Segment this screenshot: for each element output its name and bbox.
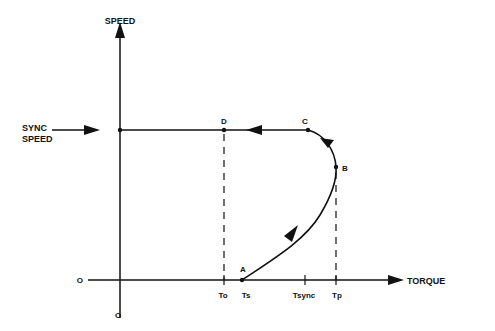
torque-axis-label: TORQUE — [407, 276, 445, 286]
point-d-dot — [222, 128, 226, 132]
ts-tick-label: Ts — [242, 291, 251, 300]
arrow-right-icon — [84, 125, 100, 135]
to-tick-label: To — [218, 291, 227, 300]
sync-speed-intercept-dot — [118, 128, 122, 132]
point-a-dot — [240, 278, 244, 282]
point-c-label: C — [302, 117, 308, 126]
speed-axis-label: SPEED — [105, 16, 136, 26]
arrow-left-icon — [246, 125, 262, 135]
torque-axis-arrow-icon — [388, 275, 404, 285]
speed-axis — [115, 22, 125, 318]
speed-torque-diagram: SPEED TORQUE O O SYNC SPEED D C B A To T… — [0, 0, 495, 331]
origin-x-label: O — [77, 276, 83, 285]
point-b-label: B — [342, 164, 348, 173]
tsync-tick-label: Tsync — [293, 291, 316, 300]
tp-tick-label: Tp — [332, 291, 342, 300]
origin-y-label: O — [115, 311, 121, 320]
point-a-label: A — [240, 265, 246, 274]
sync-speed-label-line1: SYNC — [22, 123, 48, 133]
point-c-dot — [306, 128, 310, 132]
arrow-up-icon — [284, 225, 298, 242]
speed-torque-curve — [242, 130, 336, 280]
point-d-label: D — [221, 117, 227, 126]
sync-speed-pointer-arrow — [52, 125, 100, 135]
arrow-curve-icon — [320, 138, 334, 148]
point-b-dot — [334, 165, 338, 169]
sync-speed-label-line2: SPEED — [22, 134, 53, 144]
